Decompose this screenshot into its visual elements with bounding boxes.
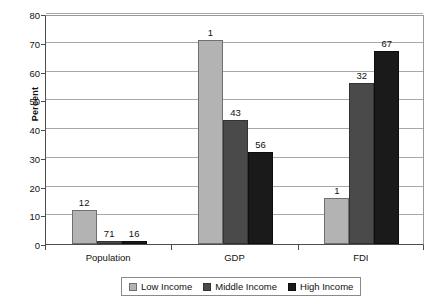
- bar-fdi-middle-income[interactable]: [349, 83, 374, 244]
- legend-item-middle-income[interactable]: Middle Income: [203, 281, 277, 292]
- y-tick-label: 70: [5, 38, 45, 49]
- x-tick-mark: [298, 245, 299, 250]
- bar-value-label: 43: [217, 107, 254, 118]
- bar-gdp-high-income[interactable]: [248, 152, 273, 244]
- x-tick-mark: [423, 245, 424, 250]
- bar-value-label: 12: [66, 197, 103, 208]
- x-axis: PopulationGDPFDI: [45, 245, 424, 271]
- legend-swatch-icon: [203, 283, 211, 291]
- bar-value-label: 1: [192, 27, 229, 38]
- x-tick-mark: [171, 245, 172, 250]
- legend-item-low-income[interactable]: Low Income: [129, 281, 192, 292]
- y-tick-label: 80: [5, 10, 45, 21]
- legend-swatch-icon: [288, 283, 296, 291]
- bar-value-label: 16: [116, 228, 153, 239]
- y-tick-label: 40: [5, 125, 45, 136]
- bar-population-high-income[interactable]: [122, 241, 147, 244]
- legend-label: Middle Income: [215, 281, 277, 292]
- bar-gdp-low-income[interactable]: [198, 40, 223, 244]
- x-category-label-fdi: FDI: [353, 252, 368, 263]
- x-category-label-population: Population: [86, 252, 131, 263]
- bar-fdi-low-income[interactable]: [324, 198, 349, 244]
- bars-layer: 1271161435613267: [46, 16, 423, 244]
- bar-value-label: 67: [368, 38, 405, 49]
- bar-chart: Percent 01020304050607080 12711614356132…: [0, 0, 443, 307]
- y-tick-label: 50: [5, 96, 45, 107]
- plot-area: 1271161435613267: [45, 15, 424, 245]
- y-tick-label: 30: [5, 153, 45, 164]
- legend-label: Low Income: [141, 281, 192, 292]
- bar-value-label: 56: [242, 139, 279, 150]
- legend-swatch-icon: [129, 283, 137, 291]
- chart-legend: Low IncomeMiddle IncomeHigh Income: [121, 277, 361, 296]
- y-tick-label: 10: [5, 211, 45, 222]
- x-category-label-gdp: GDP: [224, 252, 245, 263]
- y-axis-tick-labels: 01020304050607080: [0, 15, 45, 245]
- y-tick-label: 0: [5, 240, 45, 251]
- y-tick-label: 60: [5, 67, 45, 78]
- bar-fdi-high-income[interactable]: [374, 51, 399, 244]
- y-tick-label: 20: [5, 182, 45, 193]
- legend-label: High Income: [300, 281, 353, 292]
- gridline: [46, 13, 423, 14]
- x-tick-mark: [45, 245, 46, 250]
- legend-item-high-income[interactable]: High Income: [288, 281, 353, 292]
- bar-population-middle-income[interactable]: [97, 241, 122, 244]
